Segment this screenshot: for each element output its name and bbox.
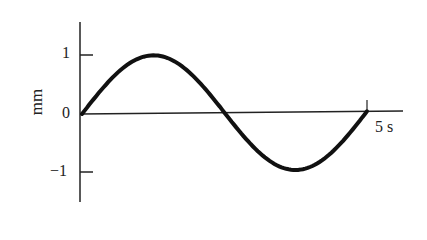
y-tick-label-neg1: −1 bbox=[50, 162, 67, 180]
y-tick-label-1: 1 bbox=[62, 44, 70, 62]
y-axis-label: mm bbox=[27, 89, 47, 115]
x-axis bbox=[80, 111, 403, 114]
y-tick-label-0: 0 bbox=[62, 104, 70, 122]
sine-curve bbox=[82, 55, 367, 170]
x-end-label: 5 s bbox=[375, 118, 393, 136]
